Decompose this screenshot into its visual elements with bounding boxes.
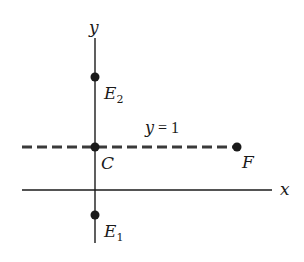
point-e2-label: E2 bbox=[103, 83, 123, 106]
point-c bbox=[91, 143, 100, 152]
coordinate-diagram: y x y = 1 E2 C F E1 bbox=[0, 0, 304, 262]
point-e1 bbox=[91, 211, 100, 220]
point-e1-label: E1 bbox=[103, 221, 123, 244]
point-f-label: F bbox=[241, 152, 255, 172]
point-e2 bbox=[91, 73, 100, 82]
y-axis-label: y bbox=[88, 17, 99, 37]
point-c-label: C bbox=[101, 153, 114, 173]
x-axis-label: x bbox=[280, 179, 290, 199]
point-f bbox=[233, 143, 242, 152]
line-equation-label: y = 1 bbox=[144, 118, 179, 137]
